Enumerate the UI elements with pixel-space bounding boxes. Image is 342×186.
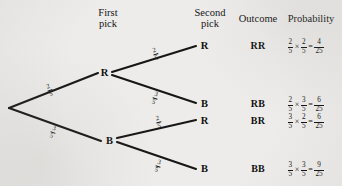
probability-expression-rb: 2 5 × 3 5 = 6 25 [287, 97, 324, 113]
fraction-rr-factor1: 2 5 [288, 39, 294, 55]
node-second-pick-rb: B [199, 98, 210, 109]
outcome-rr: RR [240, 40, 276, 51]
probability-expression-br: 3 5 × 2 5 = 6 25 [287, 114, 324, 130]
times-sign-bb: × [295, 165, 300, 175]
outcome-bb: BB [240, 163, 276, 174]
equals-sign-bb: = [308, 165, 313, 175]
node-second-pick-rr: R [199, 40, 210, 51]
fraction-rr-factor2: 2 5 [301, 39, 307, 55]
node-first-pick-b: B [104, 135, 115, 146]
equals-sign-rr: = [308, 42, 313, 52]
fraction-rb-factor1: 2 5 [288, 97, 294, 113]
outcome-br: BR [240, 115, 276, 126]
fraction-bb-factor1: 3 5 [288, 162, 294, 178]
node-second-pick-bb: B [199, 163, 210, 174]
fraction-br-factor1: 3 5 [288, 114, 294, 130]
equals-sign-br: = [308, 117, 313, 127]
outcome-rb: RB [240, 98, 276, 109]
fraction-bb-result: 9 25 [314, 162, 323, 178]
node-second-pick-br: R [199, 115, 210, 126]
probability-expression-bb: 3 5 × 3 5 = 9 25 [287, 162, 324, 178]
header-second-pick: Second pick [186, 8, 234, 29]
times-sign-rb: × [295, 100, 300, 110]
fraction-br-result: 6 25 [314, 114, 323, 130]
header-probability: Probability [280, 14, 342, 25]
probability-tree-diagram: First pick Second pick Outcome Probabili… [0, 0, 342, 186]
probability-expression-rr: 2 5 × 2 5 = 4 25 [287, 39, 324, 55]
fraction-br-factor2: 2 5 [301, 114, 307, 130]
header-outcome: Outcome [234, 14, 282, 25]
times-sign-br: × [295, 117, 300, 127]
fraction-rb-factor2: 3 5 [301, 97, 307, 113]
node-first-pick-r: R [99, 67, 110, 78]
fraction-rr-result: 4 25 [314, 39, 323, 55]
header-first-pick: First pick [84, 8, 132, 29]
times-sign-rr: × [295, 42, 300, 52]
branch-root-to-r [9, 73, 98, 108]
fraction-rb-result: 6 25 [314, 97, 323, 113]
fraction-bb-factor2: 3 5 [301, 162, 307, 178]
equals-sign-rb: = [308, 100, 313, 110]
